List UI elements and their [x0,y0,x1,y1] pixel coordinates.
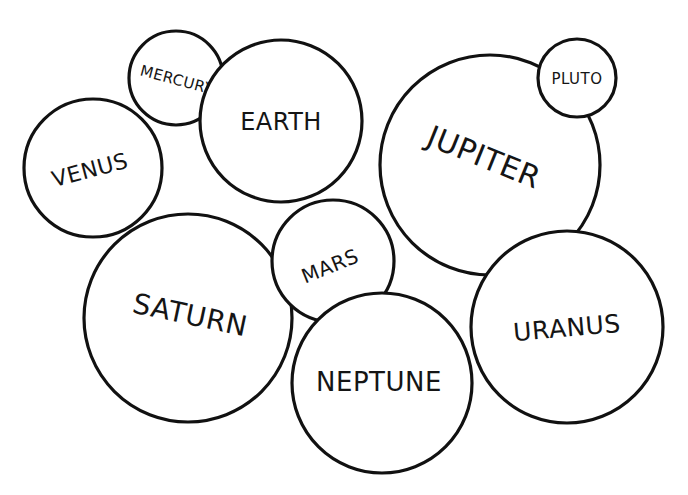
neptune-label: NEPTUNE [316,367,442,397]
planet-neptune: NEPTUNE [292,293,472,473]
pluto-label: PLUTO [551,70,602,88]
planet-bubble-diagram: MERCURY EARTH VENUS JUPITER PLUTO URANUS… [0,0,688,495]
planet-venus: VENUS [24,99,162,237]
earth-label: EARTH [240,108,322,136]
planet-uranus: URANUS [471,231,663,423]
planet-saturn: SATURN [84,214,292,422]
planet-pluto: PLUTO [538,39,616,117]
planet-earth: EARTH [200,40,362,202]
